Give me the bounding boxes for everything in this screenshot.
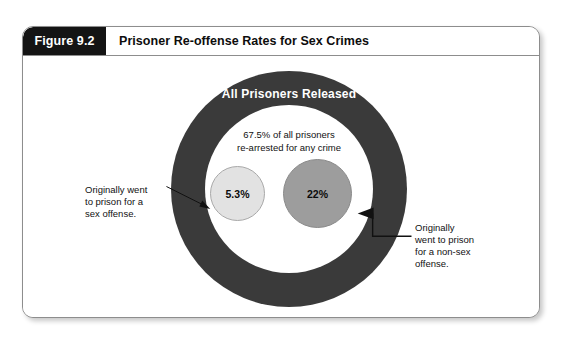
center-caption: 67.5% of all prisoners re-arrested for a… [171,129,407,154]
annotation-sex-offense-line-3: sex offense. [85,208,177,220]
bubble-sex-offense: 5.3% [210,166,265,221]
bubble-non-sex-offense-value: 22% [307,188,328,200]
annotation-non-sex-offense-line-3: for a non-sex [415,246,507,258]
donut-ring: All Prisoners Released 67.5% of all pris… [171,71,407,307]
figure-number-tag: Figure 9.2 [23,27,106,55]
annotation-sex-offense-line-1: Originally went [85,184,177,196]
annotation-sex-offense-line-2: to prison for a [85,196,177,208]
figure-frame: Figure 9.2 Prisoner Re-offense Rates for… [22,26,540,318]
figure-header: Figure 9.2 Prisoner Re-offense Rates for… [23,27,539,56]
bubble-sex-offense-value: 5.3% [226,188,250,200]
annotation-sex-offense: Originally went to prison for a sex offe… [85,184,177,220]
annotation-non-sex-offense-line-4: offense. [415,258,507,270]
center-caption-line-2: re-arrested for any crime [171,142,407,155]
annotation-non-sex-offense-line-1: Originally [415,222,507,234]
center-caption-line-1: 67.5% of all prisoners [171,129,407,142]
annotation-non-sex-offense-line-2: went to prison [415,234,507,246]
figure-title: Prisoner Re-offense Rates for Sex Crimes [106,27,539,55]
annotation-non-sex-offense: Originally went to prison for a non-sex … [415,222,507,270]
ring-label-all-prisoners-released: All Prisoners Released [171,87,407,101]
bubble-non-sex-offense: 22% [283,159,352,228]
chart-canvas: All Prisoners Released 67.5% of all pris… [23,56,539,317]
